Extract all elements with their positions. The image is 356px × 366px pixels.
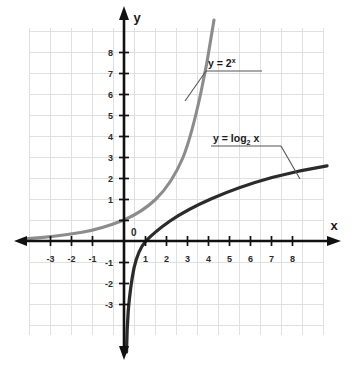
x-tick-label-neg3: -3 <box>46 254 54 264</box>
x-tick-label-4: 4 <box>206 254 211 264</box>
x-tick-label-6: 6 <box>248 254 253 264</box>
y-tick-label-8: 8 <box>108 48 113 58</box>
y-tick-label-5: 5 <box>108 111 113 121</box>
x-tick-label-1: 1 <box>143 254 148 264</box>
y-tick-label-4: 4 <box>108 132 113 142</box>
logarithm-label-base: y = log <box>213 132 247 144</box>
y-axis-name-label: y <box>133 10 141 25</box>
x-tick-label-2: 2 <box>164 254 169 264</box>
x-axis-name-label: x <box>330 218 338 233</box>
coordinate-plane-chart: -3 -2 -1 1 2 3 4 5 6 7 8 8 7 6 5 4 3 2 1… <box>0 0 356 366</box>
y-tick-label-neg3: -3 <box>105 300 113 310</box>
y-tick-label-2: 2 <box>108 174 113 184</box>
logarithm-label-variable: x <box>250 132 259 144</box>
exponential-curve-label: y = 2x <box>208 57 236 69</box>
x-tick-label-7: 7 <box>269 254 274 264</box>
x-tick-label-neg1: -1 <box>88 254 96 264</box>
exponential-label-exponent: x <box>232 57 236 64</box>
logarithm-curve-label: y = log2 x <box>213 132 259 146</box>
x-tick-label-5: 5 <box>227 254 232 264</box>
x-tick-label-3: 3 <box>185 254 190 264</box>
origin-label: 0 <box>131 227 137 238</box>
y-tick-label-1: 1 <box>108 195 113 205</box>
exponential-label-base: y = 2 <box>208 57 232 69</box>
x-tick-label-8: 8 <box>290 254 295 264</box>
y-tick-label-6: 6 <box>108 90 113 100</box>
y-tick-label-7: 7 <box>108 69 113 79</box>
x-tick-label-neg2: -2 <box>67 254 75 264</box>
y-tick-label-neg1: -1 <box>105 258 113 268</box>
y-tick-label-neg2: -2 <box>105 279 113 289</box>
y-tick-label-3: 3 <box>108 153 113 163</box>
graph-figure: -3 -2 -1 1 2 3 4 5 6 7 8 8 7 6 5 4 3 2 1… <box>0 0 356 366</box>
